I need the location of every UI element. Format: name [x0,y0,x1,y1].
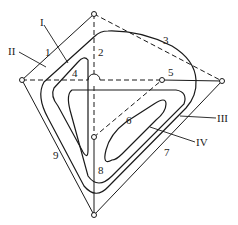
node-bottom [92,213,97,218]
edge-label-8: 8 [98,164,104,176]
node-right [220,79,225,84]
edge-label-6: 6 [126,114,132,126]
edge-label-9: 9 [53,149,59,161]
node-top [92,12,97,17]
diagram-canvas: 1 2 3 4 5 6 7 8 9 I II III IV [0,0,238,225]
contour-I [53,58,88,156]
graph-diagram: 1 2 3 4 5 6 7 8 9 I II III IV [0,0,238,225]
node-inner [92,135,97,140]
leader-III [180,116,216,118]
edge-label-2: 2 [98,46,104,58]
edge-top-right-dashed [94,14,222,81]
edge-label-4: 4 [72,67,78,79]
contour-label-II: II [8,45,16,57]
contour-label-IV: IV [196,136,208,148]
edge-label-7: 7 [164,146,170,158]
edge-label-3: 3 [163,34,169,46]
node-mid-right [160,78,165,83]
edge-inner-mid-dashed [94,80,162,137]
contour-label-I: I [40,16,44,28]
leader-IV [150,127,195,142]
contour-III [68,90,185,183]
edge-label-1: 1 [45,46,51,58]
node-left [20,78,25,83]
crossover-hump [88,74,100,80]
leader-II [19,52,46,67]
edge-label-5: 5 [168,66,174,78]
contour-label-III: III [217,112,228,124]
edge-left-bottom [22,80,94,215]
edge-mid-right [162,80,222,81]
